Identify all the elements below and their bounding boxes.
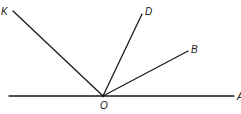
angle-diagram: K D B O A [0, 0, 241, 114]
label-o: O [100, 100, 108, 111]
label-d: D [145, 6, 152, 17]
label-k: K [1, 6, 9, 17]
vertex-point [102, 95, 105, 98]
ray-od [103, 14, 142, 96]
label-a: A [236, 91, 241, 102]
label-b: B [191, 44, 198, 55]
ray-ok [13, 11, 103, 96]
ray-ob [103, 51, 188, 96]
